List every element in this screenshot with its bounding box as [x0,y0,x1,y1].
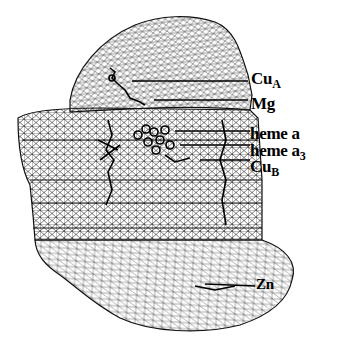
label-heme-a3-subscript: 3 [300,149,306,163]
surface-top-domain [70,17,252,112]
label-cua-subscript: A [272,77,280,91]
label-cub: CuB [250,158,279,175]
label-cub-subscript: B [271,165,279,179]
protein-surface-figure [0,0,337,348]
label-mg: Mg [251,95,275,112]
label-cua: CuA [251,70,281,87]
label-zn: Zn [256,276,274,293]
label-mg-text: Mg [251,94,275,113]
label-cub-text: Cu [250,157,271,176]
label-zn-text: Zn [256,276,274,292]
label-cua-text: Cu [251,69,272,88]
label-heme-a: heme a [250,125,300,142]
